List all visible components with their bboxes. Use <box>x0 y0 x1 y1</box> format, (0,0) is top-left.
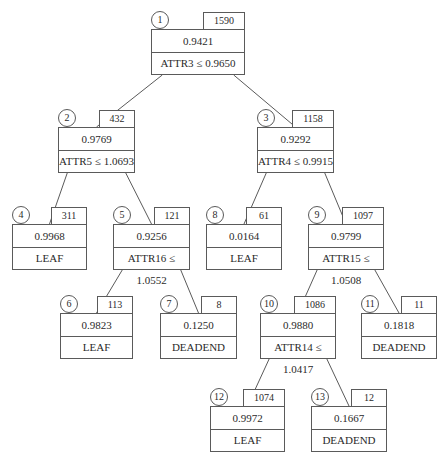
node-value: 0.9769 <box>59 128 134 150</box>
deadend-label: DEADEND <box>161 336 236 358</box>
node-count: 11 <box>401 296 437 313</box>
tree-node-10: 0.9880ATTR14 ≤ 1.0417108610 <box>260 313 336 357</box>
split-rule: ATTR14 ≤ 1.0417 <box>261 336 335 380</box>
node-value: 0.9880 <box>261 314 335 336</box>
split-rule: ATTR5 ≤ 1.0693 <box>59 150 134 172</box>
node-box: 0.9292ATTR4 ≤ 0.9915 <box>257 127 334 173</box>
node-count: 432 <box>99 110 135 127</box>
node-count: 8 <box>201 296 237 313</box>
split-rule: ATTR4 ≤ 0.9915 <box>258 150 333 172</box>
node-value: 0.1250 <box>161 314 236 336</box>
tree-node-13: 0.1667DEADEND1213 <box>311 406 387 450</box>
tree-node-1: 0.9421ATTR3 ≤ 0.965015901 <box>151 29 245 73</box>
node-id-circle: 12 <box>210 388 228 406</box>
leaf-label: LEAF <box>211 429 284 451</box>
node-id-circle: 8 <box>206 206 224 224</box>
node-value: 0.0164 <box>207 225 281 247</box>
node-id-circle: 10 <box>260 295 278 313</box>
tree-node-2: 0.9769ATTR5 ≤ 1.06934322 <box>58 127 135 171</box>
node-value: 0.9823 <box>61 314 132 336</box>
node-value: 0.9972 <box>211 407 284 429</box>
node-id-circle: 1 <box>151 11 169 29</box>
node-value: 0.9292 <box>258 128 333 150</box>
node-id-circle: 2 <box>58 109 76 127</box>
node-count: 1097 <box>342 207 384 224</box>
node-value: 0.9256 <box>114 225 189 247</box>
node-id-circle: 3 <box>257 109 275 127</box>
node-box: 0.9823LEAF <box>60 313 133 359</box>
node-count: 12 <box>351 389 387 406</box>
node-value: 0.9799 <box>309 225 383 247</box>
node-count: 1074 <box>243 389 285 406</box>
node-box: 0.1818DEADEND <box>361 313 437 359</box>
deadend-label: DEADEND <box>312 429 386 451</box>
leaf-label: LEAF <box>61 336 132 358</box>
tree-node-8: 0.0164LEAF618 <box>206 224 282 268</box>
node-box: 0.1250DEADEND <box>160 313 237 359</box>
split-rule: ATTR16 ≤ 1.0552 <box>114 247 189 291</box>
node-count: 1086 <box>294 296 336 313</box>
tree-node-7: 0.1250DEADEND87 <box>160 313 237 357</box>
node-count: 311 <box>51 207 87 224</box>
node-value: 0.1667 <box>312 407 386 429</box>
node-id-circle: 4 <box>12 206 30 224</box>
node-count: 1590 <box>203 12 245 29</box>
tree-node-6: 0.9823LEAF1136 <box>60 313 133 357</box>
node-box: 0.9799ATTR15 ≤ 1.0508 <box>308 224 384 270</box>
node-box: 0.9769ATTR5 ≤ 1.0693 <box>58 127 135 173</box>
node-id-circle: 11 <box>361 295 379 313</box>
deadend-label: DEADEND <box>362 336 436 358</box>
node-id-circle: 9 <box>308 206 326 224</box>
node-box: 0.0164LEAF <box>206 224 282 270</box>
tree-node-12: 0.9972LEAF107412 <box>210 406 285 450</box>
node-box: 0.9256ATTR16 ≤ 1.0552 <box>113 224 190 270</box>
leaf-label: LEAF <box>207 247 281 269</box>
split-rule: ATTR3 ≤ 0.9650 <box>152 52 244 74</box>
tree-node-9: 0.9799ATTR15 ≤ 1.050810979 <box>308 224 384 268</box>
tree-node-3: 0.9292ATTR4 ≤ 0.991511583 <box>257 127 334 171</box>
node-value: 0.9421 <box>152 30 244 52</box>
node-count: 113 <box>97 296 133 313</box>
node-box: 0.9421ATTR3 ≤ 0.9650 <box>151 29 245 75</box>
node-id-circle: 6 <box>60 295 78 313</box>
node-box: 0.1667DEADEND <box>311 406 387 452</box>
tree-node-11: 0.1818DEADEND1111 <box>361 313 437 357</box>
node-value: 0.1818 <box>362 314 436 336</box>
tree-node-4: 0.9968LEAF3114 <box>12 224 87 268</box>
node-id-circle: 7 <box>160 295 178 313</box>
node-box: 0.9968LEAF <box>12 224 87 270</box>
node-count: 1158 <box>292 110 334 127</box>
leaf-label: LEAF <box>13 247 86 269</box>
node-id-circle: 5 <box>113 206 131 224</box>
node-value: 0.9968 <box>13 225 86 247</box>
split-rule: ATTR15 ≤ 1.0508 <box>309 247 383 291</box>
node-box: 0.9880ATTR14 ≤ 1.0417 <box>260 313 336 359</box>
node-box: 0.9972LEAF <box>210 406 285 452</box>
node-id-circle: 13 <box>311 388 329 406</box>
tree-node-5: 0.9256ATTR16 ≤ 1.05521215 <box>113 224 190 268</box>
node-count: 121 <box>154 207 190 224</box>
node-count: 61 <box>246 207 282 224</box>
